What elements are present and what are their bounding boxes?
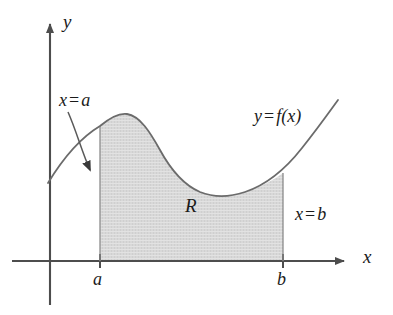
- annotation-x-equals-b-value: b: [317, 204, 326, 224]
- x-axis-label: x: [363, 247, 371, 266]
- annotation-y-equals-f-of-x: y=f(x): [254, 107, 301, 125]
- annotation-x-equals-b-operator: =: [303, 204, 317, 224]
- annotation-curve-value: f(x): [276, 106, 301, 126]
- x-tick-label-b: b: [277, 270, 286, 288]
- annotation-curve-operator: =: [262, 106, 276, 126]
- annotation-curve-var: y: [254, 106, 262, 126]
- area-under-curve-figure: y x a b x=a x=b y=f(x) R: [0, 0, 393, 315]
- annotation-x-equals-b: x=b: [295, 205, 326, 223]
- region-label-R: R: [185, 196, 197, 215]
- annotation-x-equals-a-operator: =: [67, 90, 81, 110]
- y-axis-label: y: [63, 12, 71, 31]
- x-tick-label-a: a: [93, 270, 102, 288]
- annotation-x-equals-a-value: a: [81, 90, 90, 110]
- annotation-x-equals-a-var: x: [59, 90, 67, 110]
- annotation-x-equals-a: x=a: [59, 91, 90, 109]
- annotation-x-equals-b-var: x: [295, 204, 303, 224]
- figure-canvas: [0, 0, 393, 315]
- x-equals-a-pointer-arrow: [68, 112, 90, 170]
